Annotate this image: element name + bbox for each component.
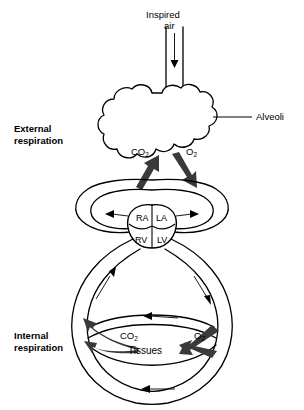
external-respiration-line2: respiration [14,135,63,146]
heart-chamber-ra: RA [136,213,149,223]
inspired-air-line2: air [164,20,175,31]
heart-chamber-la: LA [156,213,167,223]
internal-respiration-line1: Internal [14,330,48,341]
systemic-left-flow-head [109,267,116,277]
external-o2-label: O2 [186,146,197,158]
heart-chamber-rv: RV [135,235,147,245]
internal-respiration-line2: respiration [14,342,63,353]
systemic-right-flow-head [204,295,211,305]
pulmonary-left-flow-shaft [112,214,128,216]
systemic-circuit-group [72,239,233,405]
internal-co2-label: CO2 [120,330,138,342]
pulmonary-right-flow-shaft [176,214,192,216]
tissues-label: Tissues [128,345,162,356]
respiration-diagram: Alveoli External respiration CO2 O2 [0,0,304,410]
tissue-upper-flow-head [143,312,152,320]
inspired-air-arrow-head [171,60,179,68]
external-co2-arrow [136,155,159,190]
external-gas-exchange-group: CO2 O2 [131,146,197,190]
heart-group: RA LA RV LV [128,204,177,248]
alveoli-cloud [98,85,217,158]
pulmonary-right-flow-head [190,210,199,218]
systemic-outer-left [72,239,233,405]
pulmonary-left-flow-head [105,210,114,218]
systemic-bottom-flow-head [141,385,150,393]
heart-chamber-lv: LV [157,235,167,245]
external-respiration-line1: External [14,123,52,134]
external-respiration-label-group: External respiration [14,123,63,146]
inspired-air-line1: Inspired [146,9,180,20]
internal-respiration-label-group: Internal respiration [14,330,63,353]
alveoli-label: Alveoli [256,111,284,122]
inspired-air-label-group: Inspired air [146,9,180,31]
